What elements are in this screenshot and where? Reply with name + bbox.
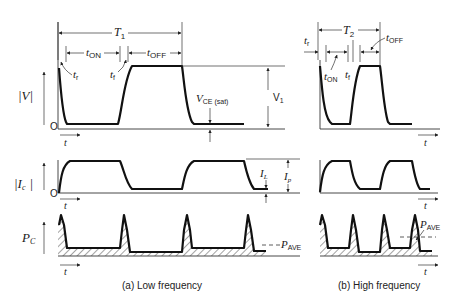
v1-label: V1: [273, 92, 284, 104]
t-r-label: tr: [73, 68, 79, 81]
switching-waveform-diagram: |V| O T1 tON tOFF tr tf VCE (sat): [0, 0, 458, 302]
period-t1-label: T1: [114, 25, 126, 41]
caption-high-frequency: (b) High frequency: [338, 280, 420, 291]
current-zero-label: O: [50, 188, 58, 199]
panel-b-current: t: [320, 160, 438, 211]
panel-a-voltage: |V| O T1 tON tOFF tr tf VCE (sat): [18, 22, 285, 148]
t-off-label: tOFF: [147, 46, 166, 60]
power-waveform: [59, 215, 266, 252]
current-waveform: [59, 161, 268, 193]
power-time-label: t: [64, 266, 67, 277]
il-label: IL: [259, 167, 268, 181]
pave-label-a: PAVE: [280, 238, 302, 251]
t-off-label-b: tOFF: [386, 31, 403, 44]
voltage-waveform: [59, 66, 244, 124]
panel-a-power: PC PAVE t (a) Low frequency: [21, 215, 302, 291]
panel-b-power: PAVE t (b) High frequency: [320, 215, 441, 291]
svg-text:t: t: [424, 137, 427, 148]
svg-text:t: t: [424, 266, 427, 277]
svg-text:t: t: [424, 200, 427, 211]
pave-label-b: PAVE: [419, 218, 441, 231]
power-hatched-area: [58, 215, 266, 256]
current-axis-label: |Ic|: [14, 176, 33, 192]
t-r-label-b: tr: [304, 34, 310, 47]
voltage-axis-label: |V|: [18, 88, 33, 103]
voltage-zero-label: O: [50, 121, 58, 132]
t-on-label: tON: [86, 46, 101, 60]
t-f-label: tf: [110, 68, 115, 81]
voltage-waveform-b: [320, 66, 412, 124]
caption-low-frequency: (a) Low frequency: [122, 280, 202, 291]
panel-b-voltage: T2 tr tON tf tOFF t: [304, 22, 440, 148]
power-axis-label: PC: [21, 230, 36, 246]
current-waveform-b: [320, 161, 430, 192]
voltage-time-label: t: [64, 137, 67, 148]
current-time-label: t: [64, 200, 67, 211]
period-t2-label: T2: [343, 23, 355, 39]
panel-a-current: |Ic| O IL Ip t: [14, 159, 300, 211]
t-on-label-b: tON: [324, 70, 338, 83]
vce-sat-label: VCE (sat): [196, 92, 228, 106]
t-f-label-b: tf: [345, 68, 350, 81]
ip-label: Ip: [283, 170, 292, 184]
